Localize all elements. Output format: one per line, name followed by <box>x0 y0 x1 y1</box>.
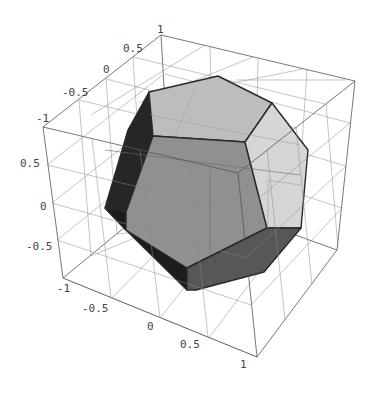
svg-text:-0.5: -0.5 <box>26 240 53 253</box>
svg-text:0.5: 0.5 <box>180 338 200 351</box>
svg-text:-0.5: -0.5 <box>82 302 109 315</box>
svg-text:0: 0 <box>147 320 154 333</box>
svg-text:0: 0 <box>40 200 47 213</box>
svg-text:-0.5: -0.5 <box>62 86 89 99</box>
bottom-axis-labels: -1 -0.5 0 0.5 1 <box>57 282 247 371</box>
svg-text:-1: -1 <box>57 282 70 295</box>
svg-text:0: 0 <box>103 63 110 76</box>
svg-text:1: 1 <box>157 23 164 36</box>
svg-text:1: 1 <box>240 358 247 371</box>
svg-text:-1: -1 <box>36 112 49 125</box>
svg-text:0.5: 0.5 <box>20 157 40 170</box>
left-axis-labels: 0.5 0 -0.5 <box>20 157 53 253</box>
dodecahedron-3d-plot: -1 -0.5 0 0.5 1 0.5 0 -0.5 -1 -0.5 0 0.5… <box>0 0 377 396</box>
svg-text:0.5: 0.5 <box>123 42 143 55</box>
